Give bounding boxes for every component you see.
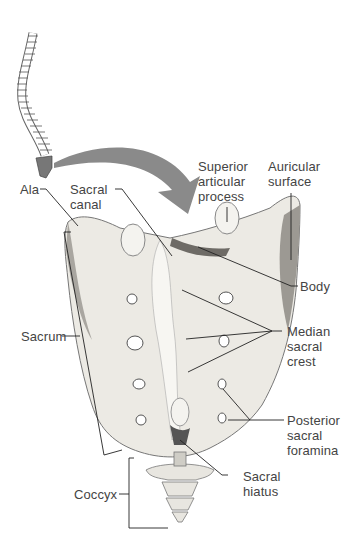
coccyx-bone <box>146 452 214 522</box>
sacrum-bone <box>65 196 300 457</box>
label-ala: Ala <box>20 182 39 197</box>
label-auricular-surface: Auricular surface <box>268 159 320 189</box>
vertebral-column-icon <box>17 33 52 178</box>
label-coccyx: Coccyx <box>74 487 117 502</box>
sacrum-diagram: Ala Sacral canal Superior articular proc… <box>0 0 362 557</box>
label-posterior-sacral-foramina: Posterior sacral foramina <box>287 413 340 458</box>
label-sacral-canal: Sacral canal <box>70 182 107 212</box>
label-body: Body <box>300 279 330 294</box>
label-superior-articular-process: Superior articular process <box>198 159 248 204</box>
label-sacral-hiatus: Sacral hiatus <box>243 469 280 499</box>
label-median-sacral-crest: Median sacral crest <box>287 324 330 369</box>
label-sacrum: Sacrum <box>21 329 66 344</box>
